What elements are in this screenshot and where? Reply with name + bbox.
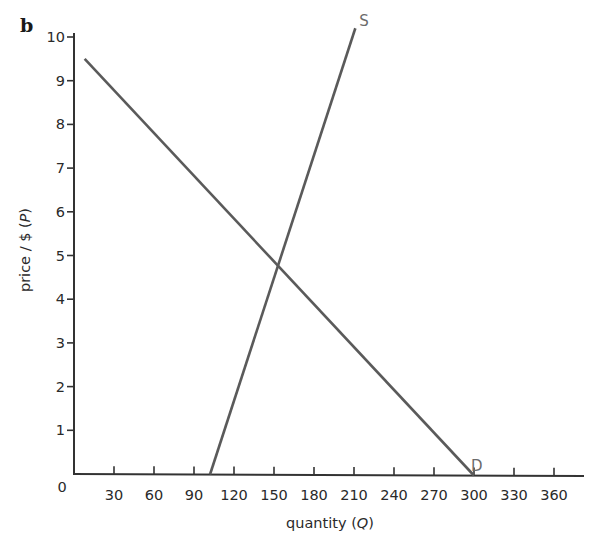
y-tick-label: 6	[56, 204, 65, 220]
axes	[73, 33, 584, 476]
supply-demand-chart: b 306090120150180210240270300330360 1234…	[0, 0, 597, 551]
x-tick-label: 360	[540, 487, 568, 503]
y-tick-label: 10	[47, 29, 65, 45]
x-axis-title: quantity (Q)	[286, 515, 374, 531]
curve-s	[210, 28, 355, 474]
curve-label-s: S	[359, 12, 369, 30]
y-ticks: 12345678910	[47, 29, 75, 438]
x-tick-label: 240	[380, 487, 408, 503]
y-axis-title: price / $ (P)	[17, 208, 33, 292]
y-tick-label: 3	[56, 335, 65, 351]
y-tick-label: 2	[56, 379, 65, 395]
x-tick-label: 300	[460, 487, 488, 503]
x-ticks: 306090120150180210240270300330360	[105, 466, 568, 503]
x-tick-label: 330	[500, 487, 528, 503]
curve-label-d: D	[471, 457, 483, 475]
series: SD	[85, 12, 483, 475]
x-axis	[73, 474, 584, 476]
y-tick-label: 5	[56, 248, 65, 264]
x-tick-label: 60	[145, 487, 163, 503]
x-tick-label: 210	[340, 487, 368, 503]
panel-label: b	[20, 14, 33, 36]
x-tick-label: 30	[105, 487, 123, 503]
origin-label: 0	[57, 479, 66, 495]
x-tick-label: 270	[420, 487, 448, 503]
x-tick-label: 180	[300, 487, 328, 503]
y-tick-label: 1	[56, 422, 65, 438]
x-tick-label: 90	[185, 487, 203, 503]
y-tick-label: 9	[56, 73, 65, 89]
y-tick-label: 7	[56, 160, 65, 176]
curve-d	[85, 59, 474, 476]
y-tick-label: 4	[56, 291, 65, 307]
x-tick-label: 120	[220, 487, 248, 503]
x-tick-label: 150	[260, 487, 288, 503]
y-tick-label: 8	[56, 116, 65, 132]
